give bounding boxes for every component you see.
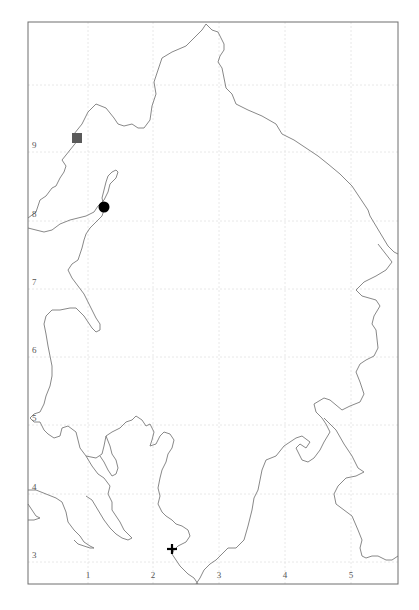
circle-marker-icon (99, 202, 110, 213)
x-tick-label: 2 (151, 570, 156, 580)
y-tick-label: 3 (32, 550, 37, 560)
axis-labels: 123453456789 (32, 140, 354, 580)
y-tick-label: 7 (32, 277, 37, 287)
map-figure: 123453456789 (0, 0, 419, 610)
square-marker-icon (72, 133, 82, 143)
y-tick-label: 5 (32, 413, 37, 423)
y-tick-label: 8 (32, 209, 37, 219)
y-tick-label: 4 (32, 482, 37, 492)
grid-lines (28, 22, 398, 584)
y-tick-label: 9 (32, 140, 37, 150)
coastline (28, 24, 398, 584)
x-tick-label: 5 (349, 570, 354, 580)
x-tick-label: 3 (217, 570, 222, 580)
x-tick-label: 4 (283, 570, 288, 580)
map-frame (28, 22, 398, 584)
cross-marker-icon (167, 544, 177, 554)
y-tick-label: 6 (32, 345, 37, 355)
frame-border (28, 22, 398, 584)
x-tick-label: 1 (86, 570, 91, 580)
